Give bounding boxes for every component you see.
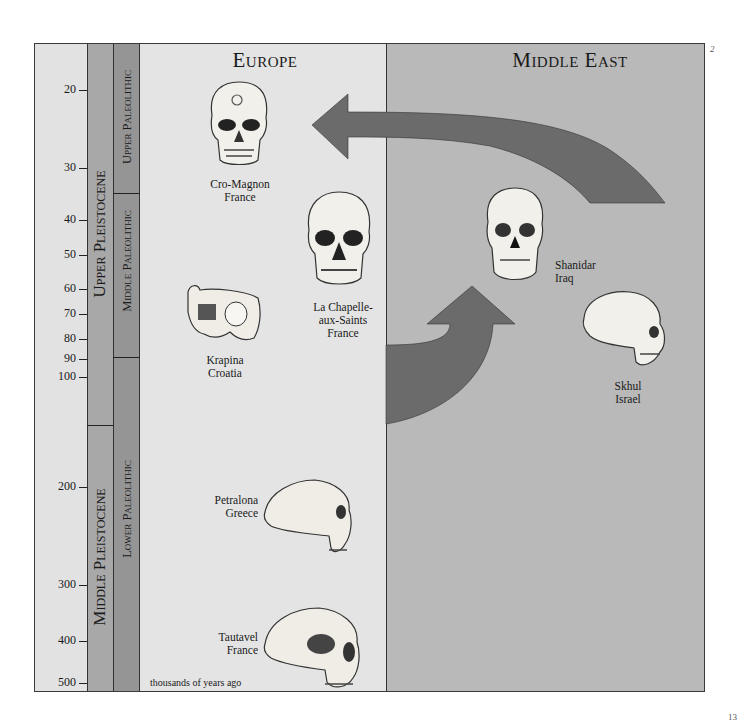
caption-krapina: Krapina Croatia [190, 354, 260, 380]
corner-mark: 2 [710, 44, 715, 54]
caption-tautavel: Tautavel France [180, 631, 258, 657]
caption-skhul: Skhul Israel [598, 380, 658, 406]
caption-shanidar: Shanidar Iraq [555, 259, 635, 285]
caption-petralona: Petralona Greece [180, 494, 258, 520]
units-label: thousands of years ago [150, 677, 241, 688]
skull-tautavel-icon [263, 604, 363, 690]
skull-petralona-icon [263, 476, 355, 556]
skull-krapina-icon [184, 282, 264, 344]
caption-cro-magnon: Cro-Magnon France [195, 178, 285, 204]
skull-shanidar-icon [484, 186, 546, 284]
arrow-europe-to-middle-east [386, 286, 515, 424]
caption-la-chapelle: La Chapelle- aux-Saints France [298, 301, 388, 340]
skull-la-chapelle-icon [303, 190, 375, 290]
page-number: 13 [728, 712, 737, 722]
skull-skhul-icon [580, 288, 670, 370]
skull-cro-magnon-icon [204, 80, 274, 170]
